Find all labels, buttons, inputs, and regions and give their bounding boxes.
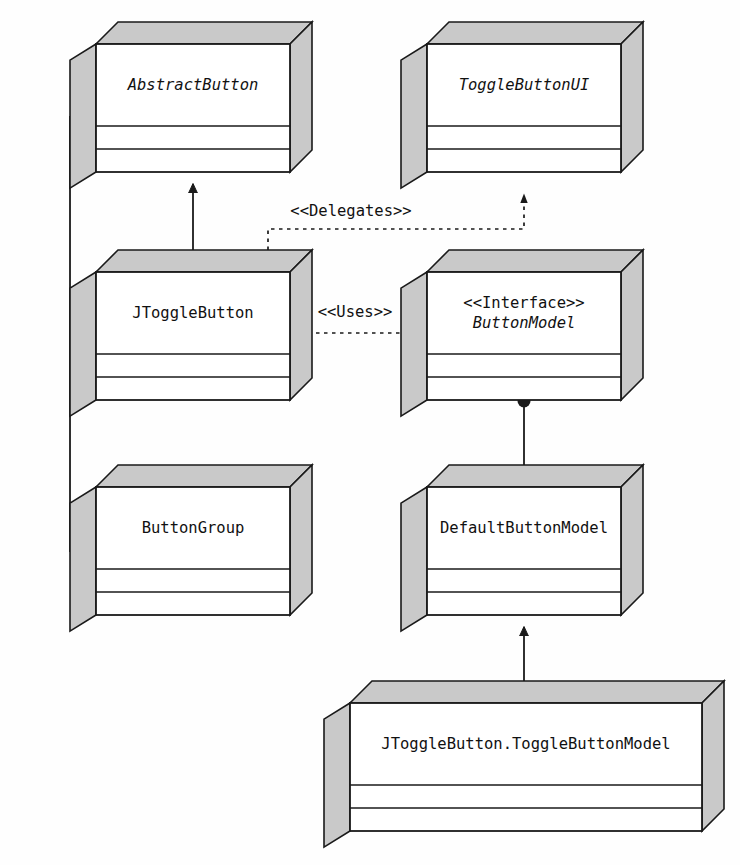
class-box-button-group[interactable]: ButtonGroup	[70, 465, 312, 631]
class-box-side-face	[621, 465, 643, 615]
class-box-jtoggle-button[interactable]: JToggleButton	[70, 250, 312, 416]
class-box-left-face	[70, 272, 96, 416]
class-box-front-face	[96, 44, 290, 172]
class-box-top-face	[427, 250, 643, 272]
class-box-abstract-button[interactable]: AbstractButton	[70, 22, 312, 188]
class-box-left-face	[324, 703, 350, 847]
class-box-default-button-model[interactable]: DefaultButtonModel	[401, 465, 643, 631]
class-box-top-face	[427, 465, 643, 487]
class-name-button-model-line-1: <<Interface>>	[463, 294, 584, 312]
class-box-button-model[interactable]: <<Interface>>ButtonModel	[401, 250, 643, 416]
class-name-abstract-button: AbstractButton	[127, 76, 259, 94]
uml-diagram-svg: 0..n <<Delegates>> <<Uses>> AbstractButt…	[0, 0, 740, 865]
class-box-side-face	[290, 22, 312, 172]
class-box-side-face	[290, 465, 312, 615]
class-box-top-face	[350, 681, 724, 703]
class-box-top-face	[96, 22, 312, 44]
class-box-jtoggle-button-toggle-button-model[interactable]: JToggleButton.ToggleButtonModel	[324, 681, 724, 847]
class-name-toggle-button-ui: ToggleButtonUI	[459, 76, 590, 94]
edge-delegates-jtoggle-toggleui: <<Delegates>>	[268, 194, 524, 250]
class-box-left-face	[401, 272, 427, 416]
class-box-front-face	[427, 487, 621, 615]
class-box-top-face	[96, 465, 312, 487]
class-box-front-face	[427, 272, 621, 400]
class-box-front-face	[96, 272, 290, 400]
class-name-jtoggle-button: JToggleButton	[132, 304, 253, 322]
class-box-front-face	[427, 44, 621, 172]
class-name-button-model-line-2: ButtonModel	[473, 314, 576, 332]
edge-label-uses: <<Uses>>	[318, 303, 393, 321]
class-box-top-face	[96, 250, 312, 272]
edge-label-delegates: <<Delegates>>	[290, 202, 411, 220]
class-name-jtoggle-button-toggle-button-model: JToggleButton.ToggleButtonModel	[381, 735, 670, 753]
class-box-side-face	[702, 681, 724, 831]
class-box-side-face	[621, 22, 643, 172]
class-box-left-face	[70, 44, 96, 188]
class-name-button-group: ButtonGroup	[142, 519, 245, 537]
class-box-side-face	[621, 250, 643, 400]
class-box-front-face	[350, 703, 702, 831]
class-box-toggle-button-ui[interactable]: ToggleButtonUI	[401, 22, 643, 188]
class-box-top-face	[427, 22, 643, 44]
class-box-left-face	[70, 487, 96, 631]
uml-diagram-canvas: 0..n <<Delegates>> <<Uses>> AbstractButt…	[0, 0, 740, 865]
class-name-default-button-model: DefaultButtonModel	[440, 519, 608, 537]
class-box-left-face	[401, 487, 427, 631]
class-box-side-face	[290, 250, 312, 400]
class-box-front-face	[96, 487, 290, 615]
class-box-left-face	[401, 44, 427, 188]
